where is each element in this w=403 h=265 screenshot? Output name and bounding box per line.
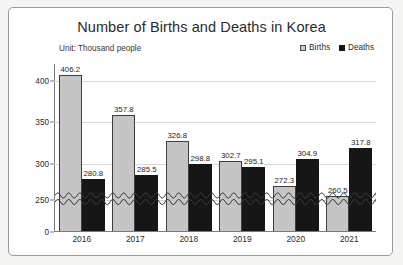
bar-group: 357.8285.5 xyxy=(109,64,163,231)
y-axis-tick-mark xyxy=(50,122,54,123)
x-axis-label-2017: 2017 xyxy=(109,234,163,244)
y-axis-tick-mark xyxy=(50,80,54,81)
bar-group: 326.8298.8 xyxy=(162,64,216,231)
x-axis-labels: 201620172018201920202021 xyxy=(55,234,376,244)
legend-item-deaths: Deaths xyxy=(339,43,374,52)
deaths-swatch-icon xyxy=(339,45,345,51)
y-axis-tick-mark xyxy=(50,200,54,201)
y-axis-tick-label: 250 xyxy=(35,196,49,205)
screenshot-root: Number of Births and Deaths in Korea Uni… xyxy=(0,0,403,265)
bar-births-2019[interactable]: 302.7 xyxy=(219,161,242,231)
bar-births-2018[interactable]: 326.8 xyxy=(166,141,189,231)
chart-unit-note: Unit: Thousand people xyxy=(59,44,141,53)
bar-value-label: 406.2 xyxy=(59,65,81,74)
bar-deaths-2020[interactable]: 304.9 xyxy=(296,159,319,231)
bar-value-label: 326.8 xyxy=(166,131,188,140)
x-axis-label-2019: 2019 xyxy=(216,234,270,244)
y-axis-tick-label: 0 xyxy=(44,228,49,237)
y-axis-tick-label: 300 xyxy=(35,160,49,169)
x-axis-label-2018: 2018 xyxy=(162,234,216,244)
legend-label-deaths: Deaths xyxy=(348,43,374,52)
bar-births-2020[interactable]: 272.3 xyxy=(273,186,296,231)
bar-deaths-2018[interactable]: 298.8 xyxy=(189,164,212,231)
bar-value-label: 285.5 xyxy=(136,165,158,174)
bar-value-label: 298.8 xyxy=(189,154,211,163)
x-axis-label-2016: 2016 xyxy=(55,234,109,244)
x-axis-label-2020: 2020 xyxy=(269,234,323,244)
bar-value-label: 280.8 xyxy=(82,169,104,178)
bar-births-2017[interactable]: 357.8 xyxy=(112,115,135,231)
plot-area: 4003503002500 406.2280.8357.8285.5326.82… xyxy=(54,64,376,232)
bar-group: 302.7295.1 xyxy=(216,64,270,231)
bar-value-label: 357.8 xyxy=(113,105,135,114)
bar-deaths-2016[interactable]: 280.8 xyxy=(82,179,105,231)
legend-item-births: Births xyxy=(300,43,330,52)
bar-value-label: 295.1 xyxy=(243,157,265,166)
y-axis-tick-mark xyxy=(50,232,54,233)
bar-group: 260.5317.8 xyxy=(323,64,377,231)
bar-births-2016[interactable]: 406.2 xyxy=(59,75,82,231)
y-axis-tick-mark xyxy=(50,164,54,165)
bar-deaths-2019[interactable]: 295.1 xyxy=(242,167,265,231)
x-axis-line xyxy=(54,231,376,232)
bar-group: 406.2280.8 xyxy=(55,64,109,231)
bar-deaths-2021[interactable]: 317.8 xyxy=(349,148,372,231)
y-axis-tick-label: 400 xyxy=(35,76,49,85)
bar-value-label: 304.9 xyxy=(296,149,318,158)
bar-value-label: 260.5 xyxy=(327,186,349,195)
chart-title: Number of Births and Deaths in Korea xyxy=(9,19,394,35)
bar-value-label: 272.3 xyxy=(273,176,295,185)
chart-frame: Number of Births and Deaths in Korea Uni… xyxy=(8,7,393,256)
bar-value-label: 317.8 xyxy=(350,138,372,147)
bar-value-label: 302.7 xyxy=(220,151,242,160)
legend-label-births: Births xyxy=(309,43,330,52)
bar-groups: 406.2280.8357.8285.5326.8298.8302.7295.1… xyxy=(55,64,376,231)
x-axis-label-2021: 2021 xyxy=(323,234,377,244)
y-axis-tick-label: 350 xyxy=(35,118,49,127)
bar-births-2021[interactable]: 260.5 xyxy=(326,196,349,231)
bar-deaths-2017[interactable]: 285.5 xyxy=(135,175,158,231)
bar-group: 272.3304.9 xyxy=(269,64,323,231)
births-swatch-icon xyxy=(300,45,306,51)
chart-legend: Births Deaths xyxy=(300,43,374,52)
